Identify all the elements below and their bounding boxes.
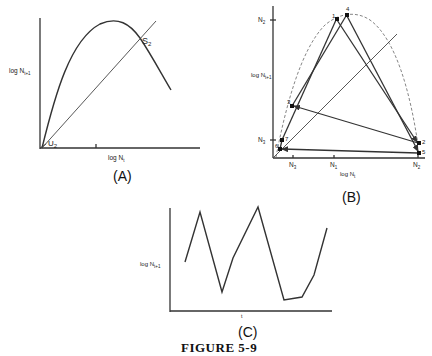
- figure-caption: FIGURE 5-9: [181, 340, 257, 355]
- traj-4-5: [347, 16, 418, 151]
- traj-1-2: [337, 20, 417, 142]
- panel-b-y-label: log Nt+1: [251, 72, 272, 80]
- point-1: [335, 17, 339, 21]
- point-4: [345, 13, 349, 17]
- panel-b-label: (B): [342, 189, 361, 205]
- panel-a: S2 U2 log Nt+1 log Nt (A): [9, 18, 200, 184]
- panel-c-y-label: log Nt+1: [140, 261, 161, 269]
- panel-b-y-tick-label-n3: N3: [258, 136, 266, 145]
- panel-c-time-series: [185, 207, 327, 300]
- figure-canvas: S2 U2 log Nt+1 log Nt (A): [0, 0, 432, 356]
- panel-b-y-tick-label-n2: N2: [258, 16, 266, 25]
- panel-a-y-label: log Nt+1: [9, 67, 31, 76]
- point-7-label: 7: [285, 136, 289, 142]
- point-2: [417, 141, 421, 145]
- panel-a-x-label: log Nt: [108, 154, 125, 163]
- point-5: [417, 151, 421, 155]
- panel-c: log Nt+1 t (C): [140, 207, 332, 340]
- panel-b-x-tick-label-n3: N3: [289, 161, 297, 170]
- panel-b-x-tick-label-n2: N2: [413, 161, 421, 170]
- traj-5-6: [282, 149, 418, 153]
- panel-a-reproduction-curve: [42, 21, 171, 148]
- point-6: [278, 147, 282, 151]
- point-5-label: 5: [422, 149, 426, 155]
- point-7: [280, 138, 284, 142]
- panel-a-replacement-line: [42, 21, 156, 148]
- panel-a-label: (A): [113, 168, 132, 184]
- panel-b: 1 4 3 2 5 7 6 N2 N3 N3 N1 N2 log Nt+1 lo…: [251, 6, 426, 205]
- panel-b-x-tick-label-n1: N1: [330, 161, 338, 170]
- panel-a-s2-label: S2: [142, 36, 152, 47]
- traj-2-3: [294, 106, 418, 143]
- panel-a-u2-label: U2: [48, 139, 58, 149]
- panel-b-x-label: log Nt: [340, 171, 356, 179]
- panel-b-replacement-line: [274, 34, 397, 157]
- point-4-label: 4: [346, 6, 350, 12]
- panel-c-x-label: t: [241, 313, 243, 319]
- panel-c-label: (C): [238, 324, 257, 340]
- point-3: [290, 104, 294, 108]
- point-2-label: 2: [422, 139, 426, 145]
